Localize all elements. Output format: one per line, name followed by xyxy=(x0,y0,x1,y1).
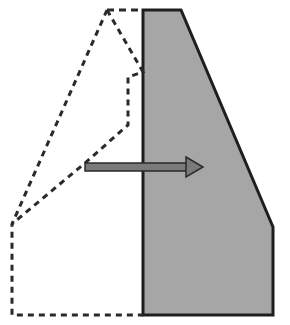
diagram-svg xyxy=(0,0,290,325)
diagram-canvas: Shape translation diagram xyxy=(0,0,290,325)
original-outline-notch xyxy=(12,10,143,224)
